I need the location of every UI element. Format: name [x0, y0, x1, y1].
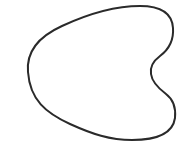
- closed-curve-shape: [28, 6, 175, 140]
- outline-shape-svg: [0, 0, 188, 156]
- drawing-canvas: Closed curve outline shape: [0, 0, 188, 156]
